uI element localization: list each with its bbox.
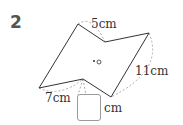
center-circle bbox=[97, 60, 101, 64]
label-right-length: 11cm bbox=[135, 65, 168, 77]
label-top-length: 5cm bbox=[91, 18, 117, 30]
answer-unit: cm bbox=[104, 102, 122, 114]
arc-bottom-left bbox=[39, 79, 83, 91]
center-dot bbox=[93, 60, 95, 62]
answer-box[interactable] bbox=[77, 94, 101, 121]
label-bottom-left-length: 7cm bbox=[45, 92, 71, 104]
